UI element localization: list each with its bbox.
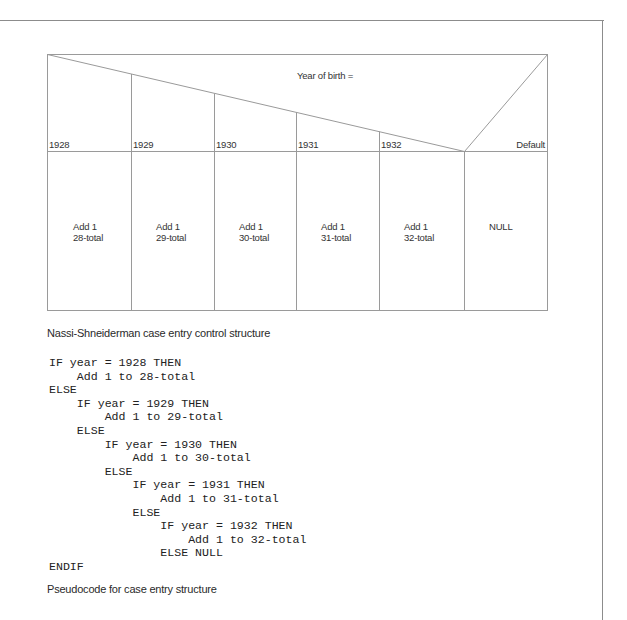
code-line: IF year = 1932 THEN [49, 519, 306, 533]
code-line: Add 1 to 29-total [49, 410, 306, 424]
case-label-1929: 1929 [133, 139, 153, 150]
pseudocode-caption: Pseudocode for case entry structure [47, 583, 217, 595]
pseudocode-block: IF year = 1928 THEN Add 1 to 28-totalELS… [49, 356, 306, 574]
case-action-1931: Add 1 31-total [321, 221, 351, 243]
action-line: 32-total [404, 232, 434, 243]
case-action-1930: Add 1 30-total [239, 221, 269, 243]
diagram-caption: Nassi-Shneiderman case entry control str… [47, 327, 270, 339]
code-line: ELSE [49, 465, 306, 479]
code-line: Add 1 to 28-total [49, 370, 306, 384]
code-line: Add 1 to 32-total [49, 533, 306, 547]
code-line: IF year = 1928 THEN [49, 356, 306, 370]
code-line: ENDIF [49, 560, 306, 574]
default-action: NULL [489, 221, 513, 232]
code-line: ELSE [49, 383, 306, 397]
code-line: IF year = 1931 THEN [49, 478, 306, 492]
action-line: 29-total [156, 232, 186, 243]
code-line: ELSE [49, 424, 306, 438]
code-line: Add 1 to 31-total [49, 492, 306, 506]
code-line: Add 1 to 30-total [49, 451, 306, 465]
default-label: Default [516, 139, 545, 150]
action-line: Add 1 [404, 221, 434, 232]
action-line: Add 1 [156, 221, 186, 232]
diagram-lines [0, 0, 627, 320]
case-label-1928: 1928 [49, 139, 69, 150]
case-action-1929: Add 1 29-total [156, 221, 186, 243]
case-label-1931: 1931 [298, 139, 318, 150]
code-line: IF year = 1929 THEN [49, 397, 306, 411]
action-line: Add 1 [239, 221, 269, 232]
code-line: ELSE NULL [49, 546, 306, 560]
code-line: ELSE [49, 506, 306, 520]
action-line: NULL [489, 221, 513, 232]
action-line: 30-total [239, 232, 269, 243]
action-line: Add 1 [321, 221, 351, 232]
case-action-1932: Add 1 32-total [404, 221, 434, 243]
action-line: 31-total [321, 232, 351, 243]
case-action-1928: Add 1 28-total [73, 221, 103, 243]
action-line: Add 1 [73, 221, 103, 232]
case-label-1932: 1932 [381, 139, 401, 150]
condition-label: Year of birth = [297, 70, 353, 81]
code-line: IF year = 1930 THEN [49, 438, 306, 452]
action-line: 28-total [73, 232, 103, 243]
nassi-shneiderman-diagram: Year of birth = 1928 1929 1930 1931 1932… [0, 0, 627, 320]
case-label-1930: 1930 [216, 139, 236, 150]
